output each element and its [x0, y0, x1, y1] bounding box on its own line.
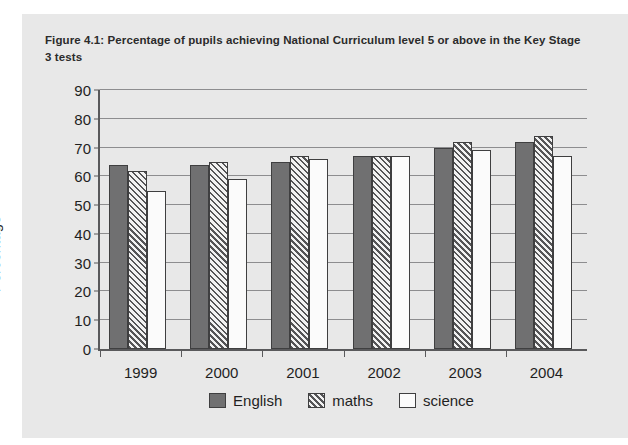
legend-swatch-maths: [308, 393, 325, 408]
x-axis-tick-mark: [425, 350, 426, 357]
bar-science-2002: [391, 156, 410, 349]
y-axis-tick-label: 40: [74, 225, 91, 242]
bar-group-1999: 1999: [100, 90, 181, 349]
bar-group-2001: 2001: [262, 90, 343, 349]
y-axis-tick-label: 60: [74, 168, 91, 185]
bar-maths-2000: [209, 162, 228, 349]
plot-area: 0102030405060708090 19992000200120022003…: [100, 90, 587, 349]
plot-frame: 0102030405060708090 19992000200120022003…: [98, 90, 587, 351]
bar-maths-1999: [128, 171, 147, 349]
x-axis-tick-label-2004: 2004: [506, 364, 587, 381]
x-axis-tick-mark: [344, 350, 345, 357]
y-axis-tick-label: 80: [74, 110, 91, 127]
figure-panel: Figure 4.1: Percentage of pupils achievi…: [22, 14, 628, 438]
bar-english-2004: [515, 142, 534, 349]
bar-group-2002: 2002: [344, 90, 425, 349]
y-axis-tick-label: 30: [74, 254, 91, 271]
bar-maths-2004: [534, 136, 553, 349]
bar-english-2001: [271, 162, 290, 349]
y-axis-tick-label: 50: [74, 197, 91, 214]
bar-science-2000: [228, 179, 247, 349]
bar-english-2000: [190, 165, 209, 349]
legend-label-english: English: [233, 392, 282, 409]
y-axis-tick-label: 20: [74, 283, 91, 300]
y-axis-tick-label: 0: [83, 341, 91, 358]
legend-label-maths: maths: [332, 392, 373, 409]
x-axis-tick-label-2000: 2000: [181, 364, 262, 381]
y-axis-tick-label: 90: [74, 82, 91, 99]
bar-science-2003: [472, 150, 491, 349]
y-axis-tick-label: 10: [74, 312, 91, 329]
legend-item-english[interactable]: English: [209, 392, 282, 409]
bar-group-2003: 2003: [425, 90, 506, 349]
legend-swatch-science: [399, 393, 416, 408]
bar-group-2000: 2000: [181, 90, 262, 349]
x-axis-tick-mark: [100, 350, 101, 357]
x-axis-tick-mark: [262, 350, 263, 357]
figure-title: Figure 4.1: Percentage of pupils achievi…: [45, 32, 585, 66]
bar-group-2004: 2004: [506, 90, 587, 349]
x-axis-tick-label-2002: 2002: [344, 364, 425, 381]
x-axis-tick-mark: [181, 350, 182, 357]
bar-english-2002: [353, 156, 372, 349]
legend-item-maths[interactable]: maths: [308, 392, 373, 409]
bar-chart: Percentage 0102030405060708090 199920002…: [40, 80, 610, 428]
x-axis-tick-label-1999: 1999: [100, 364, 181, 381]
chart-legend: Englishmathsscience: [98, 392, 585, 409]
bar-science-1999: [147, 191, 166, 349]
bar-groups: 199920002001200220032004: [100, 90, 587, 349]
bar-science-2001: [309, 159, 328, 349]
bar-maths-2003: [453, 142, 472, 349]
legend-label-science: science: [423, 392, 474, 409]
y-axis-tick-label: 70: [74, 139, 91, 156]
bar-maths-2001: [290, 156, 309, 349]
x-axis-tick-label-2003: 2003: [425, 364, 506, 381]
legend-swatch-english: [209, 393, 226, 408]
bar-english-2003: [434, 148, 453, 349]
legend-item-science[interactable]: science: [399, 392, 474, 409]
bar-english-1999: [109, 165, 128, 349]
y-axis-title: Percentage: [0, 216, 3, 293]
x-axis-tick-label-2001: 2001: [262, 364, 343, 381]
bar-maths-2002: [372, 156, 391, 349]
bar-science-2004: [553, 156, 572, 349]
x-axis-tick-mark: [506, 350, 507, 357]
